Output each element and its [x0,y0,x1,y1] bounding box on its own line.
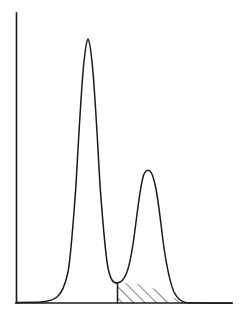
distribution-plot [0,0,239,318]
signal-trace [16,39,232,303]
hatch-pattern-fill [110,276,205,310]
hatched-area [110,276,205,310]
figure-container [0,0,239,318]
